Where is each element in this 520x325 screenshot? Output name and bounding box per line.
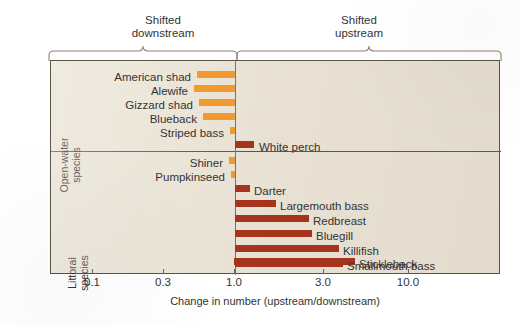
bracket-downstream-icon bbox=[48, 42, 238, 62]
bar-label-shiner: Shiner bbox=[41, 158, 223, 169]
bar-white-perch bbox=[235, 141, 254, 148]
bar-label-darter: Darter bbox=[254, 186, 286, 197]
bar-label-alewife: Alewife bbox=[41, 86, 188, 97]
bar-killifish bbox=[235, 245, 339, 252]
plot-area: Open-water species Littoral species Amer… bbox=[50, 60, 500, 274]
annotation-shifted-upstream: Shifted upstream bbox=[300, 14, 418, 40]
bracket-upstream-icon bbox=[236, 42, 502, 62]
bar-label-gizzard-shad: Gizzard shad bbox=[41, 100, 193, 111]
bar-label-pumpkinseed: Pumpkinseed bbox=[41, 172, 225, 183]
bar-bluegill bbox=[235, 230, 312, 237]
bar-label-killifish: Killifish bbox=[343, 246, 379, 257]
x-tick-3-0 bbox=[323, 269, 324, 274]
bar-stickleback-final bbox=[234, 258, 355, 265]
bar-blueback bbox=[203, 113, 235, 120]
bar-darter bbox=[235, 185, 250, 192]
bar-gizzard-shad bbox=[199, 99, 235, 106]
bar-label-bluegill: Bluegill bbox=[316, 231, 353, 242]
x-ticklabel-0-1: 0.1 bbox=[84, 276, 100, 288]
bar-label-largemouth-bass: Largemouth bass bbox=[280, 201, 369, 212]
figure-chart-change-in-number: Shifted downstream Shifted upstream Open… bbox=[0, 0, 520, 325]
x-ticklabel-0-3: 0.3 bbox=[155, 276, 171, 288]
reference-line-1x bbox=[235, 61, 237, 275]
bar-label-stickleback: Stickleback bbox=[359, 259, 417, 270]
bar-redbreast bbox=[235, 215, 309, 222]
bar-label-striped-bass: Striped bass bbox=[41, 128, 224, 139]
x-tick-0-1 bbox=[92, 269, 93, 274]
annotation-shifted-downstream: Shifted downstream bbox=[104, 14, 222, 40]
bar-american-shad bbox=[197, 71, 235, 78]
x-tick-1-0 bbox=[234, 269, 235, 274]
x-ticklabel-3-0: 3.0 bbox=[315, 276, 331, 288]
bar-pumpkinseed bbox=[231, 171, 235, 178]
x-ticklabel-10-0: 10.0 bbox=[397, 276, 419, 288]
bar-shiner bbox=[229, 157, 235, 164]
x-axis-title: Change in number (upstream/downstream) bbox=[50, 295, 500, 307]
bar-largemouth-bass bbox=[235, 200, 276, 207]
bar-label-redbreast: Redbreast bbox=[313, 216, 366, 227]
bar-label-blueback: Blueback bbox=[41, 114, 197, 125]
bar-striped-bass bbox=[230, 127, 235, 134]
bar-alewife bbox=[194, 85, 235, 92]
x-tick-0-3 bbox=[163, 269, 164, 274]
x-ticklabel-1-0: 1.0 bbox=[226, 276, 242, 288]
bar-label-american-shad: American shad bbox=[41, 72, 191, 83]
bar-label-white-perch: White perch bbox=[259, 142, 320, 153]
